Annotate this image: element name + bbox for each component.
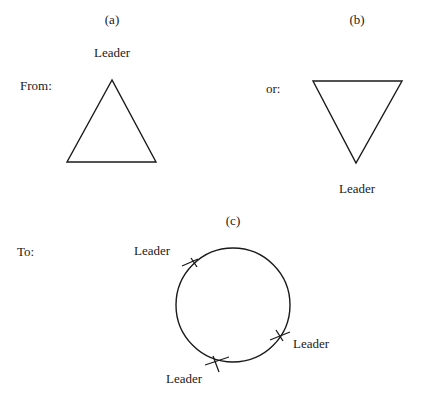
panel-c-leader-label-lower-right: Leader: [293, 336, 330, 351]
ring-shape: [176, 248, 290, 362]
panel-b: (b) or: Leader: [266, 12, 402, 196]
panel-c: (c) To: Leader Leader Leader: [17, 213, 330, 386]
triangle-up-shape: [67, 80, 156, 162]
panel-a-label: (a): [105, 12, 119, 27]
panel-a-leader-label: Leader: [94, 45, 131, 60]
leader-mark-bottom: [205, 356, 229, 372]
triangle-down-shape: [313, 81, 402, 163]
panel-c-prefix: To:: [17, 244, 34, 259]
leader-topology-diagram: (a) Leader From: (b) or: Leader (c) To: …: [0, 0, 422, 405]
panel-c-leader-label-bottom: Leader: [166, 371, 203, 386]
panel-c-leader-label-upper-left: Leader: [134, 243, 171, 258]
panel-b-prefix: or:: [266, 81, 280, 96]
panel-c-label: (c): [226, 213, 240, 228]
panel-b-label: (b): [349, 12, 364, 27]
leader-mark-lower-right: [270, 330, 290, 341]
panel-a: (a) Leader From:: [20, 12, 156, 162]
panel-a-prefix: From:: [20, 78, 52, 93]
panel-b-leader-label: Leader: [339, 181, 376, 196]
